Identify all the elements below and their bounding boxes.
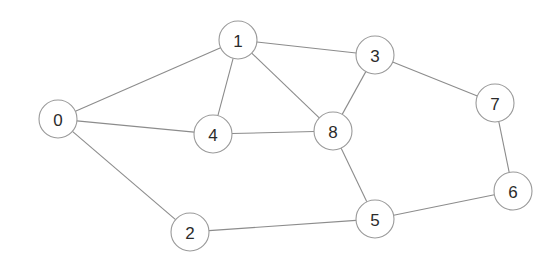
node-label-1: 1 [233, 32, 242, 51]
nodes-layer: 012345678 [39, 21, 532, 251]
graph-edge-5-8 [341, 148, 367, 202]
graph-edge-0-4 [77, 121, 194, 132]
graph-edge-1-4 [218, 58, 233, 115]
graph-canvas: 012345678 [0, 0, 560, 268]
graph-edge-0-1 [75, 48, 220, 112]
graph-edge-5-6 [394, 195, 495, 215]
node-label-0: 0 [53, 111, 62, 130]
graph-node-8[interactable]: 8 [314, 112, 352, 150]
graph-node-3[interactable]: 3 [356, 36, 394, 74]
node-label-4: 4 [208, 126, 217, 145]
graph-node-1[interactable]: 1 [219, 21, 257, 59]
edges-layer [72, 42, 509, 231]
graph-node-4[interactable]: 4 [194, 115, 232, 153]
graph-node-6[interactable]: 6 [494, 172, 532, 210]
node-label-7: 7 [490, 95, 499, 114]
node-label-3: 3 [370, 47, 379, 66]
graph-edge-3-7 [393, 62, 478, 96]
node-label-6: 6 [508, 183, 517, 202]
graph-edge-3-8 [342, 72, 366, 115]
graph-node-7[interactable]: 7 [476, 84, 514, 122]
graph-edge-0-2 [72, 131, 175, 219]
node-label-8: 8 [328, 123, 337, 142]
graph-edge-5-2 [209, 220, 356, 230]
graph-edge-6-7 [499, 122, 509, 173]
graph-node-0[interactable]: 0 [39, 100, 77, 138]
graph-node-2[interactable]: 2 [171, 213, 209, 251]
node-label-2: 2 [185, 224, 194, 243]
graph-diagram: 012345678 [0, 0, 560, 268]
graph-node-5[interactable]: 5 [356, 200, 394, 238]
graph-edge-1-3 [257, 42, 356, 53]
graph-edge-4-8 [232, 131, 314, 133]
graph-edge-1-8 [252, 53, 320, 118]
node-label-5: 5 [370, 211, 379, 230]
